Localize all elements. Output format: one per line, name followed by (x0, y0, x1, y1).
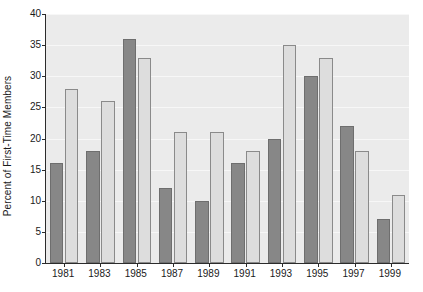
x-tick-mark-1987 (173, 263, 174, 267)
x-tick-mark-1983 (100, 263, 101, 267)
x-tick-mark-1997 (355, 263, 356, 267)
bar-1989-dark (195, 201, 209, 263)
gridline-y-40 (46, 14, 409, 15)
y-tick-label-35: 35 (5, 40, 41, 50)
bar-1999-light (392, 195, 406, 263)
x-tick-mark-1995 (318, 263, 319, 267)
bar-1991-dark (231, 163, 245, 263)
y-tick-mark-40 (42, 14, 46, 15)
bar-1981-light (65, 89, 79, 263)
bar-1983-light (101, 101, 115, 263)
y-tick-label-20: 20 (5, 134, 41, 144)
y-tick-mark-5 (42, 232, 46, 233)
bar-1995-dark (304, 76, 318, 263)
bar-1985-dark (123, 39, 137, 263)
y-tick-mark-0 (42, 263, 46, 264)
y-tick-label-30: 30 (5, 71, 41, 81)
gridline-y-30 (46, 76, 409, 77)
bar-1995-light (319, 58, 333, 263)
y-tick-mark-25 (42, 107, 46, 108)
x-tick-mark-1993 (282, 263, 283, 267)
y-tick-label-15: 15 (5, 165, 41, 175)
y-tick-label-25: 25 (5, 102, 41, 112)
bar-1985-light (138, 58, 152, 263)
y-tick-label-10: 10 (5, 196, 41, 206)
y-tick-mark-20 (42, 139, 46, 140)
bar-1987-light (174, 132, 188, 263)
bar-1993-light (283, 45, 297, 263)
bar-1987-dark (159, 188, 173, 263)
y-tick-label-5: 5 (5, 227, 41, 237)
y-tick-mark-35 (42, 45, 46, 46)
x-tick-mark-1991 (246, 263, 247, 267)
plot-area: 0510152025303540 (45, 14, 409, 264)
bar-1983-dark (86, 151, 100, 263)
y-tick-label-0: 0 (5, 258, 41, 268)
bar-1997-light (355, 151, 369, 263)
x-tick-mark-1985 (137, 263, 138, 267)
bar-1981-dark (50, 163, 64, 263)
bar-1991-light (246, 151, 260, 263)
bar-1989-light (210, 132, 224, 263)
gridline-y-35 (46, 45, 409, 46)
bar-chart-figure: Percent of First-Time Members 0510152025… (0, 0, 423, 292)
x-tick-mark-1999 (391, 263, 392, 267)
bar-1993-dark (268, 139, 282, 264)
plot-inner (46, 14, 409, 263)
y-tick-mark-15 (42, 170, 46, 171)
y-tick-label-40: 40 (5, 9, 41, 19)
x-tick-mark-1989 (209, 263, 210, 267)
y-tick-mark-30 (42, 76, 46, 77)
x-tick-label-1999: 1999 (368, 268, 412, 280)
x-tick-mark-1981 (64, 263, 65, 267)
y-tick-mark-10 (42, 201, 46, 202)
bar-1999-dark (377, 219, 391, 263)
bar-1997-dark (340, 126, 354, 263)
